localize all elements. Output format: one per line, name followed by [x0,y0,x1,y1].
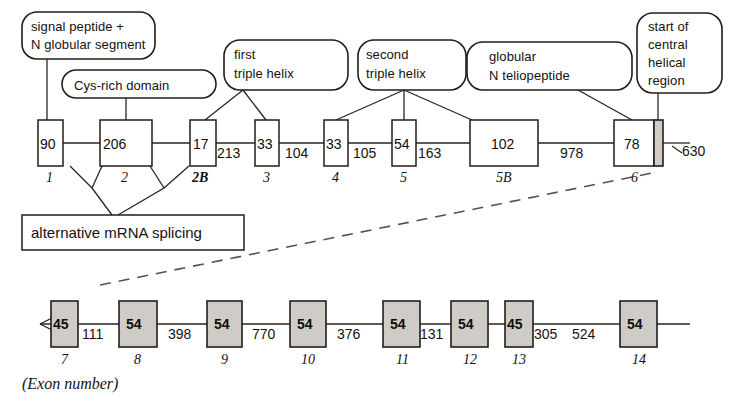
callout-second-triple-helix-line2: triple helix [366,66,426,81]
top-exon-2b-label: 2B [191,170,208,185]
callout-second-triple-helix-line1: second [366,47,409,62]
top-exon-6: 78 6 [614,120,663,185]
callout-second-triple-helix: second triple helix [336,40,472,120]
callout-signal-peptide: signal peptide + N globular segment [22,12,155,120]
leader-second-helix-to-5b [404,90,472,120]
bottom-exon-7: 45 7 [51,301,78,367]
bottom-intron-376: 376 [337,326,361,342]
callout-globular-line2: N teliopeptide [489,68,570,83]
top-tail-630: 630 [682,143,706,159]
bottom-intron-770: 770 [252,326,276,342]
bottom-intron-524: 524 [572,326,596,342]
callout-first-triple-helix-line1: first [234,47,256,62]
top-exon-5b-label: 5B [496,170,512,185]
bottom-exon-12: 54 12 [451,301,488,367]
bottom-exon-12-size: 54 [458,316,474,332]
bottom-intron-111: 111 [82,326,103,342]
callout-cys-rich: Cys-rich domain [62,70,216,120]
bottom-intron-398: 398 [168,326,192,342]
bottom-exon-12-label: 12 [463,352,477,367]
top-exon-5b-size: 102 [491,136,515,152]
top-exon-3: 33 3 [255,120,279,185]
bottom-exon-13-size: 45 [507,316,523,332]
callout-globular-line1: globular [489,49,537,64]
bottom-exon-13: 45 13 [505,301,533,367]
bottom-exon-10-size: 54 [297,316,313,332]
top-exon-1: 90 1 [38,120,63,185]
top-exon-6-shaded-strip [654,120,663,166]
callout-start-central-line4: region [648,73,685,88]
bottom-exon-14-label: 14 [632,352,646,367]
top-exon-4-size: 33 [326,136,342,152]
bottom-exon-7-size: 45 [53,316,69,332]
top-exon-2b-size: 17 [193,136,209,152]
splice-leader-from-1 [70,166,112,215]
bottom-exon-9-size: 54 [214,316,230,332]
leader-globular-to-6 [578,90,632,120]
bottom-exon-11-size: 54 [390,316,406,332]
gene-structure-diagram: signal peptide + N globular segment Cys-… [0,0,736,403]
callout-signal-peptide-line2: N globular segment [31,37,146,52]
callout-start-central-helical: start of central helical region [637,13,722,124]
top-intron-104: 104 [285,145,309,161]
top-exon-2-label: 2 [121,170,128,185]
callout-cys-rich-line1: Cys-rich domain [74,78,169,93]
callout-start-central-line3: helical [648,55,686,70]
top-intron-213: 213 [217,145,241,161]
top-exon-6-size: 78 [624,136,640,152]
bottom-intron-131: 131 [420,326,444,342]
bottom-exon-14: 54 14 [620,301,657,367]
bottom-exon-8-size: 54 [126,316,142,332]
top-exon-4-label: 4 [332,170,339,185]
top-exon-5b: 102 5B [470,120,538,185]
bottom-exon-8-label: 8 [134,352,141,367]
callout-signal-peptide-line1: signal peptide + [31,19,124,34]
alternative-splicing-group: alternative mRNA splicing [22,166,244,250]
callout-start-central-line2: central [648,37,688,52]
top-exon-2-size: 206 [103,136,127,152]
top-exon-5: 54 5 [392,120,416,185]
exon-number-caption: (Exon number) [22,375,118,393]
top-exon-3-size: 33 [257,136,273,152]
bottom-exon-9-label: 9 [221,352,228,367]
callout-first-triple-helix: first triple helix [205,40,348,120]
top-intron-163: 163 [418,145,442,161]
alternative-splicing-label: alternative mRNA splicing [31,224,202,241]
leader-first-helix-to-3 [243,90,266,120]
leader-second-helix-to-4 [336,90,404,120]
bottom-exon-8: 54 8 [119,301,157,367]
bottom-exon-7-label: 7 [61,352,69,367]
diagram-canvas: signal peptide + N globular segment Cys-… [0,0,736,403]
top-exon-2: 206 2 [100,120,152,185]
top-intron-105: 105 [353,145,377,161]
top-exon-2b: 17 2B [190,120,216,185]
bottom-exon-10-label: 10 [301,352,315,367]
bottom-exon-13-label: 13 [512,352,526,367]
callout-start-central-line1: start of [648,19,689,34]
top-exon-5-size: 54 [394,136,410,152]
callout-globular-n-telopeptide: globular N teliopeptide [467,42,632,120]
top-exon-5-label: 5 [400,170,407,185]
bottom-intron-305: 305 [534,326,558,342]
callout-first-triple-helix-line2: triple helix [234,66,294,81]
top-intron-978: 978 [560,145,584,161]
splice-leader-from-2-left [92,166,102,188]
top-exon-1-size: 90 [40,136,56,152]
bottom-exon-11-label: 11 [396,352,409,367]
tail-tick [672,146,682,153]
splice-leader-from-2b [164,166,189,188]
bottom-exon-14-size: 54 [627,316,643,332]
top-exon-3-label: 3 [262,170,270,185]
bottom-exon-10: 54 10 [290,301,326,367]
bottom-exon-9: 54 9 [207,301,242,367]
bottom-exon-11: 54 11 [383,301,420,367]
top-exon-4: 33 4 [324,120,348,185]
top-exon-1-label: 1 [46,170,53,185]
